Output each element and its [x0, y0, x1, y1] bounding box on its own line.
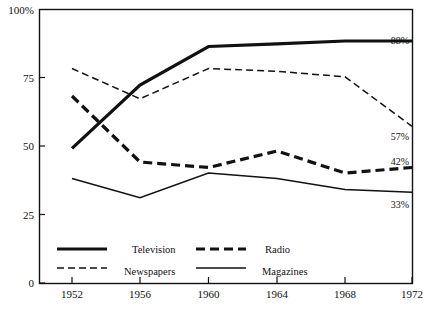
legend-label-magazines: Magazines: [262, 266, 307, 277]
y-axis-ticks: [40, 78, 46, 284]
y-axis-label-25: 25: [23, 209, 35, 221]
y-axis-label-50: 50: [23, 140, 35, 152]
y-axis-label-75: 75: [23, 72, 35, 84]
plot-frame: [40, 10, 413, 284]
value-label-newspapers: 57%: [391, 131, 409, 142]
x-axis-label-1956: 1956: [129, 288, 152, 300]
x-axis-label-1960: 1960: [198, 288, 221, 300]
x-axis-label-1952: 1952: [61, 288, 83, 300]
value-label-television: 88%: [391, 35, 409, 46]
series-line-radio: [72, 96, 412, 173]
value-label-magazines: 33%: [391, 199, 409, 210]
x-axis-label-1972: 1972: [401, 288, 423, 300]
chart-legend: Television Radio Newspapers Magazines: [57, 244, 307, 277]
y-axis-label-100: 100%: [8, 4, 34, 16]
value-label-radio: 42%: [391, 156, 409, 167]
chart-canvas: 0 25 50 75 100% 1952 1956 1960 1964 1968…: [0, 0, 424, 311]
x-axis-label-1964: 1964: [266, 288, 289, 300]
x-axis-label-1968: 1968: [334, 288, 357, 300]
series-line-television: [72, 41, 412, 148]
legend-label-television: Television: [132, 244, 176, 255]
y-axis-label-0: 0: [29, 277, 35, 289]
series-line-newspapers: [72, 69, 412, 127]
series-line-magazines: [72, 173, 412, 198]
legend-label-newspapers: Newspapers: [124, 266, 175, 277]
x-axis-ticks: [72, 277, 412, 284]
legend-label-radio: Radio: [265, 244, 290, 255]
line-chart: 0 25 50 75 100% 1952 1956 1960 1964 1968…: [0, 0, 424, 311]
